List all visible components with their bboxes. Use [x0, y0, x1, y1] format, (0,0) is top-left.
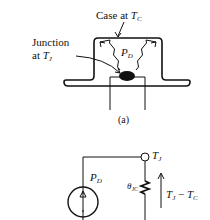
resistor-theta-label: θJC [127, 181, 138, 195]
junction-die [119, 71, 135, 81]
junction-temp-sub: J [49, 55, 52, 63]
junction-node [141, 153, 149, 161]
power-symbol: P [121, 46, 128, 58]
case-label: Case at TC [96, 10, 142, 25]
case-temp-sub: C [137, 15, 142, 23]
junction-label-line2: at TJ [32, 50, 52, 65]
junction-arrow [76, 56, 120, 73]
drop-minus: − [175, 188, 187, 200]
figure-caption-a: (a) [118, 114, 129, 125]
circuit [68, 153, 164, 220]
source-pd-label: PD [90, 172, 102, 187]
source-symbol: P [90, 171, 97, 183]
temperature-drop-label: TJ − TC [166, 189, 198, 204]
thermal-diagram [0, 0, 210, 220]
power-sub: D [128, 52, 133, 60]
node-tj-label: TJ [152, 150, 161, 165]
source-sub: D [97, 177, 102, 185]
node-sub: J [158, 155, 161, 163]
drop-t2-sub: C [193, 194, 198, 202]
case-label-text: Case at [96, 9, 131, 21]
theta-sub: JC [131, 186, 138, 192]
power-dissipation-label: PD [121, 47, 133, 62]
junction-label-prefix: at [32, 49, 43, 61]
thermal-resistor [141, 181, 149, 194]
junction-label-line1: Junction [32, 37, 69, 48]
package-leads [110, 77, 145, 110]
